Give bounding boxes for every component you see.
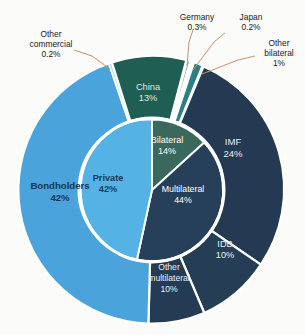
callout-other-commercial-line-2: commercial xyxy=(30,39,73,49)
callout-germany-line-2: 0.3% xyxy=(187,22,207,32)
callout-other-commercial-line-1: Other xyxy=(41,29,62,39)
callout-other-bilateral-line-1: Other xyxy=(269,38,290,48)
pie-chart-svg: China 13% IMF 24% IDB 10% Other multilat… xyxy=(0,0,305,335)
callout-other-bilateral-line-2: bilateral xyxy=(264,48,293,58)
callout-other-bilateral-line-3: 1% xyxy=(273,58,286,68)
callout-japan-line-2: 0.2% xyxy=(241,22,261,32)
callout-other-commercial-line-3: 0.2% xyxy=(41,49,61,59)
leader-line-other-bilateral xyxy=(202,56,255,74)
callout-germany-line-1: Germany xyxy=(180,12,215,22)
inner-ring-group xyxy=(79,117,226,264)
callout-japan-line-1: Japan xyxy=(240,12,263,22)
nested-donut-chart: China 13% IMF 24% IDB 10% Other multilat… xyxy=(0,0,305,335)
